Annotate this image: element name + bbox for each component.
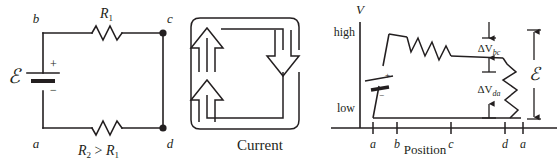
emf-label: ℰ	[8, 64, 22, 88]
x-tick-label-d: d	[502, 137, 509, 151]
resistor-r1-symbol	[92, 26, 122, 40]
node-label-c: c	[167, 11, 173, 26]
resistor-r2-label: R2 > R1	[77, 143, 119, 160]
figure-root: b c a d R1 R2 > R1 ℰ + −	[0, 0, 560, 160]
x-tick-label-b: b	[394, 137, 400, 151]
y-tick-high: high	[334, 25, 355, 39]
graph-battery-minus-sign: −	[379, 90, 384, 100]
node-label-b: b	[33, 11, 40, 26]
circuit-schematic-svg: b c a d R1 R2 > R1 ℰ + −	[0, 0, 190, 160]
battery-plus-sign: +	[50, 57, 57, 71]
y-tick-low: low	[337, 101, 355, 115]
voltage-position-graph-panel: V high low a b c d a Position	[325, 0, 560, 160]
x-tick-label-a2: a	[520, 137, 526, 151]
x-tick-label-c: c	[448, 137, 454, 151]
trace-top-b	[389, 34, 407, 37]
trace-resistor-r1	[407, 37, 451, 60]
emf-span-label: ℰ	[529, 63, 542, 84]
graph-battery-plus-sign: +	[385, 70, 390, 80]
resistor-r1-label: R1	[99, 6, 113, 23]
delta-v-da-label: ΔVda	[477, 83, 500, 98]
current-loop-svg: Current	[185, 0, 335, 160]
node-dot-d	[159, 124, 166, 131]
node-label-d: d	[167, 136, 174, 151]
current-loop-panel: Current	[185, 0, 335, 160]
circuit-schematic-panel: b c a d R1 R2 > R1 ℰ + −	[0, 0, 190, 160]
battery-minus-sign: −	[50, 83, 57, 97]
voltage-position-graph-svg: V high low a b c d a Position	[325, 0, 560, 160]
node-dot-c	[159, 29, 166, 36]
trace-battery-leg-upper	[383, 34, 389, 66]
delta-v-bc-label: ΔVbc	[478, 42, 501, 57]
trace-resistor-r2	[503, 58, 518, 118]
resistor-r2-symbol	[92, 121, 122, 135]
x-tick-label-a1: a	[370, 137, 376, 151]
y-axis-label: V	[356, 2, 366, 17]
node-label-a: a	[33, 136, 40, 151]
delta-v-da-arrows	[482, 104, 496, 118]
x-axis-label: Position	[404, 142, 447, 157]
current-caption: Current	[237, 137, 284, 153]
